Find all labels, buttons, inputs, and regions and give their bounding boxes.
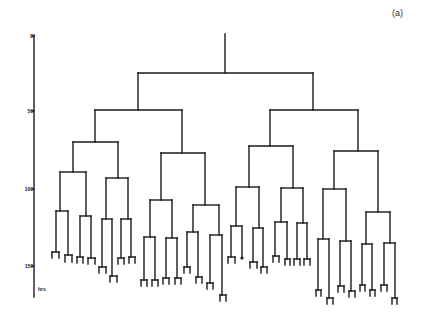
- dendrogram-tree: [0, 0, 440, 325]
- axis-tick-label: 150: [25, 263, 33, 269]
- dendrogram-figure: (a) 050100150 hrs: [0, 0, 440, 325]
- panel-label: (a): [392, 8, 403, 18]
- axis-unit-label: hrs: [38, 286, 46, 292]
- leaf-dot: [240, 256, 243, 259]
- axis-tick-label: 0: [30, 33, 33, 39]
- axis-tick-label: 100: [25, 186, 33, 192]
- tree-branches: [52, 34, 397, 304]
- axis-tick-label: 50: [27, 108, 33, 114]
